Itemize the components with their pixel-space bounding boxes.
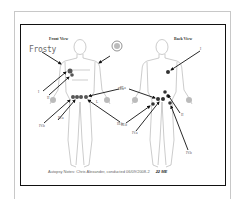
back-wound-marks <box>151 70 172 106</box>
front-body-outline <box>50 40 110 168</box>
footer-time: 22 ME <box>156 169 168 174</box>
back-label-ivb: IV.b <box>186 151 192 155</box>
back-body-outline <box>132 40 192 168</box>
front-label-iva: IV.a <box>58 116 64 120</box>
back-label-i: I <box>200 47 201 51</box>
back-label-iva: IV.a <box>132 131 138 135</box>
front-label-ii: II <box>47 96 49 100</box>
front-wound-marks <box>68 69 89 100</box>
back-label-ii: II <box>181 113 183 117</box>
front-label-i: I <box>38 90 39 94</box>
front-label-ivb: IV.b <box>39 124 45 128</box>
front-label-l: L <box>96 100 98 104</box>
back-label-iiia: III.a <box>120 86 126 90</box>
autopsy-footer: Autopsy Notes: Chris Alexander, conducte… <box>48 169 167 174</box>
official-seal-icon <box>112 41 122 51</box>
back-label-iiib: III.b <box>121 123 127 127</box>
footer-text: Autopsy Notes: Chris Alexander, conducte… <box>48 169 150 174</box>
front-arrows <box>42 52 120 123</box>
